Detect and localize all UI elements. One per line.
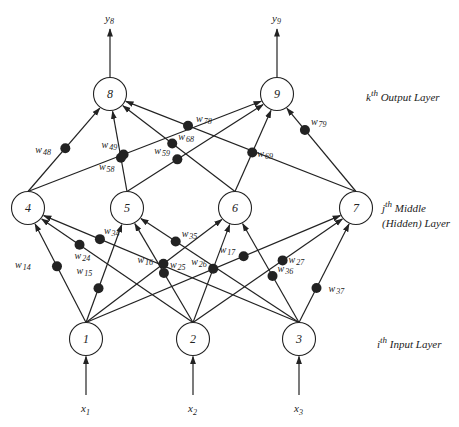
weight-dot-w16: [158, 259, 168, 269]
hidden-layer-label: jth Middle (Hidden) Layer: [382, 197, 450, 231]
weight-dot-w14: [52, 261, 62, 271]
weight-label-w59: w59: [154, 145, 170, 158]
weight-dot-w78: [183, 121, 193, 131]
output-layer-text: Output Layer: [381, 91, 440, 103]
hidden-layer-text-1: Middle: [395, 202, 426, 214]
weight-dot-w26: [208, 264, 218, 274]
node-label: 4: [25, 201, 31, 215]
node-5: 5: [111, 192, 144, 225]
weight-label-w48: w48: [35, 144, 51, 157]
node-label: 5: [124, 201, 130, 215]
weight-label-w79: w79: [311, 116, 327, 129]
weight-label-w27: w27: [289, 254, 306, 267]
node-label: 9: [274, 87, 280, 101]
input-label-x1: x1: [80, 402, 90, 417]
input-layer-sup: th: [380, 335, 387, 345]
weight-dot-w58: [116, 153, 126, 163]
output-layer-sup: th: [371, 88, 378, 98]
node-6: 6: [219, 192, 252, 225]
node-7: 7: [340, 192, 373, 225]
weight-label-w14: w14: [15, 259, 31, 272]
weight-label-w49: w49: [102, 139, 118, 152]
weight-label-w68: w68: [178, 131, 194, 144]
input-layer-label: ith Input Layer: [377, 333, 441, 352]
weight-label-w16: w16: [137, 254, 153, 267]
node-2: 2: [177, 323, 210, 356]
node-label: 2: [190, 332, 196, 346]
weight-labels: w14w15w16w17w24w25w26w27w34w35w36w37w48w…: [15, 113, 345, 296]
hidden-layer-sup: th: [385, 199, 392, 209]
edge-w37: [299, 224, 349, 322]
output-label-y9: y9: [271, 12, 281, 26]
node-3: 3: [283, 323, 316, 356]
input-label-x2: x2: [187, 402, 197, 417]
output-layer-label: kth Output Layer: [366, 86, 440, 105]
node-4: 4: [12, 192, 45, 225]
weight-label-w34: w34: [104, 225, 120, 238]
weight-label-w26: w26: [191, 256, 207, 269]
node-1: 1: [70, 323, 103, 356]
weight-dot-w68: [167, 139, 177, 149]
node-9: 9: [261, 78, 294, 111]
weight-label-w25: w25: [170, 259, 186, 272]
weight-dot-w79: [300, 125, 310, 135]
weight-label-w24: w24: [75, 250, 91, 263]
weight-dot-w59: [172, 154, 182, 164]
node-8: 8: [94, 78, 127, 111]
node-label: 7: [353, 201, 360, 215]
weight-label-w78: w78: [196, 113, 212, 126]
weight-dot-w48: [60, 143, 70, 153]
weight-dot-w25: [159, 268, 169, 278]
node-label: 1: [83, 332, 89, 346]
weight-dot-w17: [239, 251, 249, 261]
weight-dot-w15: [94, 283, 104, 293]
node-label: 6: [232, 201, 238, 215]
hidden-layer-text-2: (Hidden) Layer: [382, 217, 450, 229]
weight-dot-w37: [312, 283, 322, 293]
weight-label-w15: w15: [77, 265, 93, 278]
output-label-y8: y8: [104, 12, 114, 26]
input-label-x3: x3: [293, 402, 303, 417]
node-label: 8: [107, 87, 113, 101]
weight-dot-w24: [75, 240, 85, 250]
weight-dot-w69: [247, 148, 257, 158]
weight-label-w58: w58: [99, 161, 115, 174]
weight-label-w17: w17: [220, 244, 237, 257]
weight-dot-w36: [268, 271, 278, 281]
weight-dot-w35: [171, 236, 181, 246]
weight-label-w35: w35: [182, 228, 198, 241]
node-label: 3: [295, 332, 302, 346]
weight-label-w37: w37: [329, 283, 346, 296]
input-layer-text: Input Layer: [390, 338, 442, 350]
weight-label-w69: w69: [257, 148, 273, 161]
